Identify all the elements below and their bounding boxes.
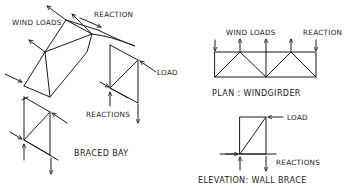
load-label: LOAD: [287, 113, 308, 122]
wall-brace-frame: [220, 117, 276, 154]
reactions-label: REACTIONS: [276, 158, 320, 167]
bracing-diagram: WIND LOADS REACTION LOAD REACTIONS BRACE…: [0, 0, 344, 187]
load-arrow: [140, 61, 156, 72]
wall-brace-title: ELEVATION: WALL BRACE: [198, 176, 307, 185]
wall-brace-group: LOAD REACTIONS ELEVATION: WALL BRACE: [198, 113, 320, 185]
reaction-label: REACTION: [303, 28, 342, 37]
load-arrow: [5, 74, 22, 82]
windgirder-title: PLAN : WINDGIRDER: [212, 89, 301, 98]
load-arrow: [10, 132, 22, 139]
windgirder-truss: [215, 52, 316, 77]
windgirder-group: WIND LOADS REACTION PLAN : WINDGIRDER: [212, 28, 342, 98]
load-arrow: [52, 113, 67, 123]
wind-load-arrow: [29, 40, 45, 52]
wind-loads-label: WIND LOADS: [226, 28, 276, 37]
roof-bracing: [24, 20, 135, 97]
wind-loads-label: WIND LOADS: [12, 18, 62, 27]
braced-bay-title: BRACED BAY: [74, 149, 129, 158]
front-wall-frame: [24, 97, 58, 160]
reactions-label: REACTIONS: [86, 110, 130, 119]
back-wall-frame: [110, 45, 138, 103]
wind-load-arrow: [72, 14, 92, 34]
load-arrow: [100, 82, 109, 87]
load-label: LOAD: [157, 68, 178, 77]
reaction-label: REACTION: [94, 10, 133, 19]
braced-bay-group: WIND LOADS REACTION LOAD REACTIONS BRACE…: [5, 6, 178, 174]
